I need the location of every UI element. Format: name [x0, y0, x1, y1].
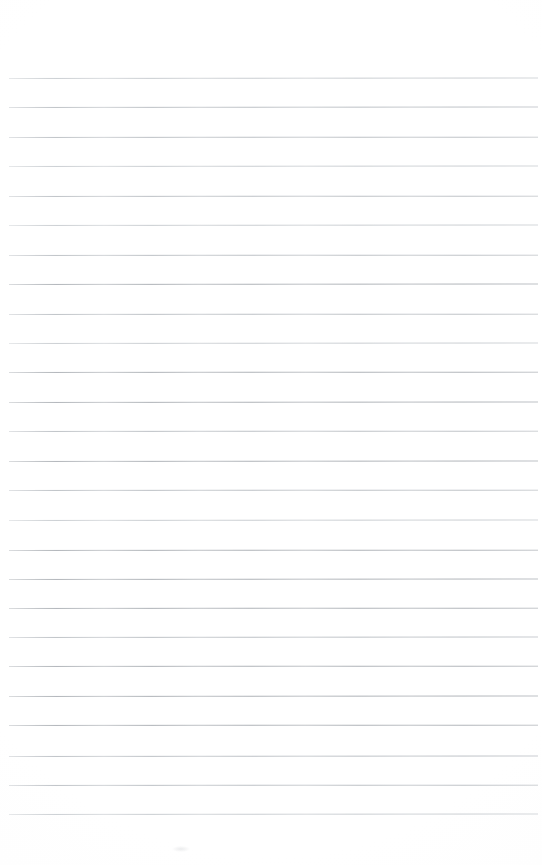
rule-line — [9, 166, 538, 167]
rule-line — [9, 756, 538, 757]
lined-paper-page — [0, 0, 542, 865]
ruled-lines-layer — [0, 0, 542, 865]
rule-line — [9, 402, 538, 403]
rule-line — [9, 225, 538, 226]
rule-line — [9, 196, 538, 197]
rule-line — [9, 255, 538, 256]
rule-line — [9, 666, 538, 667]
rule-line — [9, 431, 538, 432]
rule-line — [9, 372, 538, 373]
rule-line — [9, 284, 538, 285]
rule-line — [9, 637, 538, 638]
rule-line — [9, 579, 538, 580]
rule-line — [9, 461, 538, 462]
rule-line — [9, 77, 538, 79]
rule-line — [9, 608, 538, 609]
rule-line — [9, 314, 538, 315]
rule-line — [9, 107, 538, 108]
rule-line — [9, 696, 538, 697]
rule-line — [9, 137, 538, 138]
rule-line — [9, 490, 538, 491]
bottom-margin-blank-area — [0, 814, 542, 865]
rule-line — [9, 550, 538, 551]
rule-line — [9, 785, 538, 786]
rule-line — [9, 520, 538, 521]
rule-line — [9, 343, 538, 344]
rule-line — [9, 725, 538, 726]
